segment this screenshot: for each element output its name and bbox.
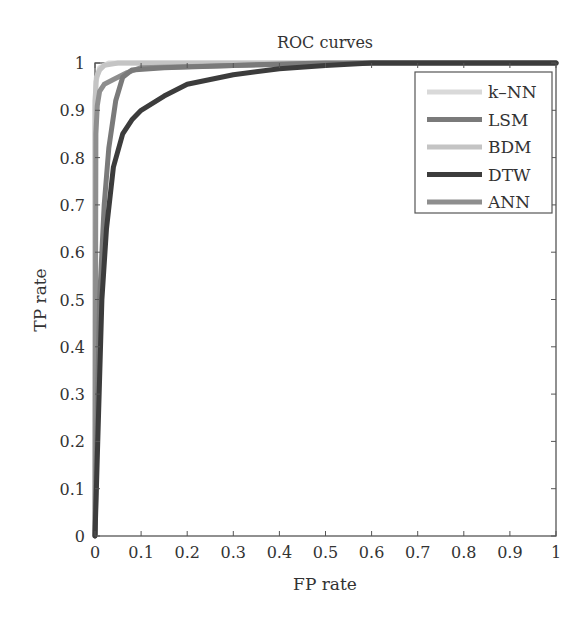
x-tick-label: 0.9: [497, 543, 522, 562]
legend: k–NNLSMBDMDTWANN: [415, 72, 552, 213]
legend-label: LSM: [488, 110, 528, 130]
legend-label: ANN: [487, 192, 530, 212]
y-tick-label: 0.6: [60, 243, 85, 262]
y-tick-label: 0.3: [60, 385, 85, 404]
y-tick-label: 0.7: [60, 196, 85, 215]
y-tick-label: 0.8: [60, 149, 85, 168]
y-tick-label: 0: [75, 527, 85, 546]
y-tick-label: 0.2: [60, 432, 85, 451]
x-tick-label: 0.4: [267, 543, 292, 562]
y-tick-label: 0.1: [60, 480, 85, 499]
y-tick-label: 0.5: [60, 291, 85, 310]
x-tick-label: 0: [90, 543, 100, 562]
y-axis-label: TP rate: [30, 268, 50, 331]
roc-chart: ROC curves 00.10.20.30.40.50.60.70.80.91…: [0, 0, 587, 624]
legend-label: DTW: [488, 165, 531, 185]
x-tick-label: 0.6: [359, 543, 384, 562]
chart-title: ROC curves: [277, 33, 373, 52]
x-tick-label: 0.7: [405, 543, 430, 562]
x-tick-label: 0.8: [451, 543, 476, 562]
x-tick-label: 0.2: [174, 543, 199, 562]
x-tick-label: 0.1: [128, 543, 153, 562]
x-axis-label: FP rate: [293, 574, 357, 594]
y-tick-label: 1: [75, 54, 85, 73]
x-tick-label: 0.3: [221, 543, 246, 562]
x-tick-label: 0.5: [313, 543, 338, 562]
legend-label: BDM: [488, 137, 532, 157]
x-tick-label: 1: [551, 543, 561, 562]
y-tick-label: 0.4: [60, 338, 85, 357]
legend-label: k–NN: [488, 82, 537, 102]
y-tick-label: 0.9: [60, 101, 85, 120]
